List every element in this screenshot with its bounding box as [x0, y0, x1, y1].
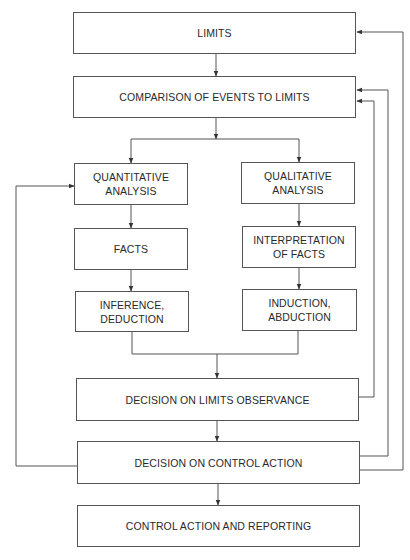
feedback-decision-control-to-comparison	[357, 90, 388, 456]
node-label: QUANTITATIVE ANALYSIS	[93, 170, 169, 198]
node-qualitative-analysis: QUALITATIVE ANALYSIS	[241, 162, 355, 204]
node-decision-on-limits-observance: DECISION ON LIMITS OBSERVANCE	[76, 378, 359, 421]
node-control-action-and-reporting: CONTROL ACTION AND REPORTING	[77, 505, 360, 547]
node-label: LIMITS	[197, 26, 231, 40]
node-label: FACTS	[114, 242, 148, 256]
node-label: INTERPRETATION OF FACTS	[253, 233, 344, 261]
node-comparison: COMPARISON OF EVENTS TO LIMITS	[73, 76, 356, 118]
feedback-decision-limits-to-comparison	[357, 101, 374, 397]
node-limits: LIMITS	[73, 12, 356, 54]
feedback-decision-control-to-limits	[357, 32, 403, 470]
node-quantitative-analysis: QUANTITATIVE ANALYSIS	[74, 163, 188, 205]
node-label: DECISION ON LIMITS OBSERVANCE	[126, 393, 310, 407]
node-decision-on-control-action: DECISION ON CONTROL ACTION	[77, 441, 360, 484]
node-label: INFERENCE, DEDUCTION	[100, 298, 165, 326]
node-label: CONTROL ACTION AND REPORTING	[126, 519, 311, 533]
flowchart: LIMITS COMPARISON OF EVENTS TO LIMITS QU…	[0, 0, 410, 560]
node-facts: FACTS	[74, 228, 188, 270]
node-interpretation-of-facts: INTERPRETATION OF FACTS	[242, 226, 356, 268]
node-induction-abduction: INDUCTION, ABDUCTION	[242, 289, 357, 331]
node-inference-deduction: INFERENCE, DEDUCTION	[75, 291, 189, 332]
merge-line	[132, 331, 298, 354]
node-label: COMPARISON OF EVENTS TO LIMITS	[119, 90, 309, 104]
node-label: DECISION ON CONTROL ACTION	[135, 456, 303, 470]
feedback-decision-control-to-quantitative	[16, 186, 77, 466]
node-label: QUALITATIVE ANALYSIS	[264, 169, 332, 197]
node-label: INDUCTION, ABDUCTION	[268, 296, 331, 324]
